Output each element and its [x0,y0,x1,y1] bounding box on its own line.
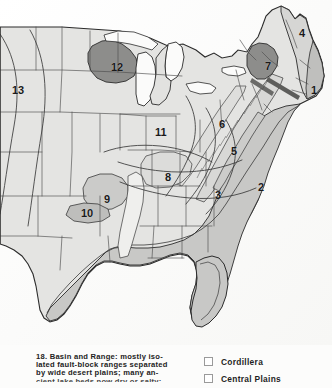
map-label-6: 6 [219,119,225,130]
legend-label-central-plains: Central Plains [221,374,281,384]
map-label-12: 12 [111,62,123,73]
legend-label-cordillera: Cordillera [221,357,263,367]
map-label-8: 8 [165,172,171,183]
map-label-13: 13 [12,85,24,96]
map-figure: 13 12 11 10 9 8 7 6 5 4 3 2 1 [0,0,332,345]
legend-swatch-icon-central-plains [204,374,213,383]
map-label-3: 3 [215,190,221,201]
caption-line-3: by wide desert plains; many an- [36,369,166,377]
map-label-11: 11 [155,127,167,138]
caption-line-4-clipped: cient lake beds now dry or salty; [36,378,166,382]
map-label-10: 10 [81,208,93,219]
legend-swatch-icon-cordillera [204,357,213,366]
map-label-7: 7 [265,61,271,72]
map-label-9: 9 [104,194,110,205]
page-root: 13 12 11 10 9 8 7 6 5 4 3 2 1 18. Basin … [0,0,332,388]
map-label-5: 5 [231,146,237,157]
map-label-2: 2 [258,182,264,193]
legend-item-central-plains[interactable]: Central Plains [204,370,332,387]
map-label-1: 1 [311,85,317,96]
figure-caption: 18. Basin and Range: mostly iso- lated f… [36,353,166,382]
legend-item-cordillera[interactable]: Cordillera [204,353,332,370]
map-label-4: 4 [299,28,305,39]
map-legend: Cordillera Central Plains [204,353,332,387]
